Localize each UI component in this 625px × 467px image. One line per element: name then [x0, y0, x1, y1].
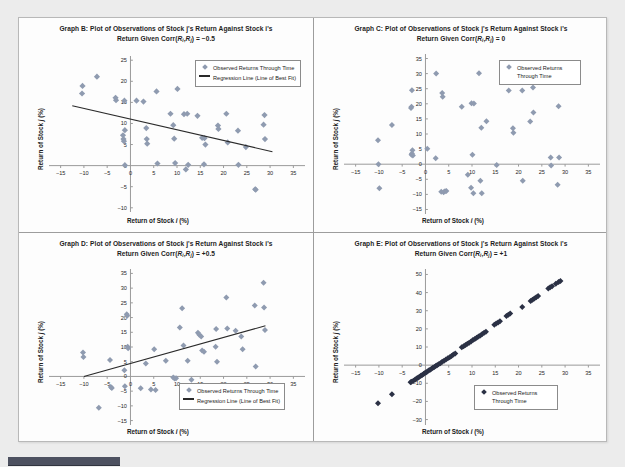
- data-point: [167, 111, 173, 117]
- legend-label-regression: Regression Line (Line of Best Fit): [213, 74, 296, 82]
- data-point: [478, 125, 484, 131]
- data-point: [253, 187, 259, 193]
- x-tick-label: 5: [152, 381, 155, 387]
- x-tick-label: 15: [492, 370, 498, 376]
- y-tick-label: −15: [412, 206, 422, 212]
- data-point: [153, 387, 159, 393]
- data-point: [506, 88, 512, 94]
- data-point: [469, 152, 475, 158]
- data-point: [133, 98, 139, 104]
- data-point: [194, 113, 200, 119]
- legend-entry-observed: Observed Returns Through Time: [503, 64, 576, 81]
- y-tick-label: −30: [412, 417, 422, 423]
- x-tick-label: −5: [104, 170, 110, 176]
- data-point: [201, 161, 207, 167]
- data-point: [530, 110, 536, 116]
- x-tick-label: 10: [469, 370, 475, 376]
- data-point: [177, 325, 183, 331]
- x-tick-label: 10: [174, 170, 180, 176]
- data-point: [261, 280, 267, 286]
- legend-entry-regression: Regression Line (Line of Best Fit): [183, 397, 280, 405]
- x-tick-label: 30: [562, 169, 568, 175]
- data-point: [470, 190, 476, 196]
- y-axis-label-graph-e: Return of Stock j (%): [332, 321, 339, 383]
- figure-sheet: Graph B: Plot of Observations of Stock j…: [18, 17, 607, 442]
- diamond-marker-icon: [183, 387, 194, 392]
- x-tick-label: 20: [515, 370, 521, 376]
- legend-graph-c[interactable]: Observed Returns Through Time: [499, 60, 581, 85]
- data-point: [253, 363, 259, 369]
- data-point: [96, 405, 102, 411]
- x-axis-label-graph-b: Return of Stock i (%): [127, 217, 189, 224]
- legend-entry-regression: Regression Line (Line of Best Fit): [199, 74, 296, 82]
- data-point: [153, 88, 159, 94]
- data-point: [238, 333, 244, 339]
- data-point: [375, 400, 381, 406]
- line-marker-icon: [199, 74, 210, 76]
- y-tick-label: 20: [416, 326, 422, 332]
- x-tick-label: 35: [585, 169, 591, 175]
- y-tick-label: 30: [416, 308, 422, 314]
- x-tick-label: −15: [56, 170, 66, 176]
- legend-label-regression: Regression Line (Line of Best Fit): [197, 397, 280, 405]
- y-tick-label: 35: [121, 270, 127, 276]
- data-point: [224, 325, 230, 331]
- data-point: [188, 377, 194, 383]
- x-axis-label-graph-c: Return of Stock i (%): [422, 217, 484, 224]
- data-point: [143, 360, 149, 366]
- y-tick-label: −10: [117, 403, 127, 409]
- data-point: [440, 94, 446, 100]
- data-point: [555, 182, 561, 188]
- data-point: [174, 86, 180, 92]
- data-point: [122, 127, 128, 133]
- x-tick-label: 0: [129, 170, 132, 176]
- data-point: [262, 327, 268, 333]
- data-point: [468, 185, 474, 191]
- y-tick-label: 5: [419, 146, 422, 152]
- data-point: [170, 122, 176, 128]
- legend-graph-b[interactable]: Observed Returns Through Time Regression…: [195, 60, 301, 87]
- legend-graph-d[interactable]: Observed Returns Through Time Regression…: [179, 383, 285, 410]
- data-point: [389, 122, 395, 128]
- data-point: [519, 88, 525, 94]
- x-tick-label: −10: [79, 170, 89, 176]
- data-point: [433, 155, 439, 161]
- data-point: [235, 162, 241, 168]
- y-tick-label: 20: [416, 101, 422, 107]
- data-point: [252, 302, 258, 308]
- y-tick-label: −5: [121, 388, 127, 394]
- legend-entry-observed: Observed Returns Through Time: [183, 387, 280, 395]
- data-point: [140, 98, 146, 104]
- plot-area-graph-d: −15−10−505101520253035−15−10−50510152025…: [19, 257, 313, 443]
- data-point: [202, 141, 208, 147]
- y-tick-label: 40: [416, 290, 422, 296]
- x-tick-label: 15: [492, 169, 498, 175]
- y-tick-label: −10: [412, 191, 422, 197]
- x-tick-label: 30: [562, 370, 568, 376]
- data-point: [520, 178, 526, 184]
- x-tick-label: 20: [220, 170, 226, 176]
- bottom-status-bar: [8, 457, 120, 466]
- y-tick-label: −15: [117, 418, 127, 424]
- diamond-marker-icon: [199, 64, 210, 69]
- data-point: [213, 344, 219, 350]
- data-point: [223, 111, 229, 117]
- x-tick-label: −10: [374, 370, 384, 376]
- chart-title-line1-graph-b: Graph B: Plot of Observations of Stock j…: [59, 25, 272, 32]
- line-marker-icon: [183, 397, 194, 399]
- x-tick-label: −10: [79, 381, 89, 387]
- legend-graph-e[interactable]: Observed Returns Through Time: [474, 385, 558, 410]
- y-tick-label: 0: [419, 362, 422, 368]
- x-tick-label: −15: [351, 370, 361, 376]
- data-point: [376, 185, 382, 191]
- x-tick-label: 25: [539, 370, 545, 376]
- data-point: [556, 155, 562, 161]
- x-tick-label: −5: [399, 169, 405, 175]
- x-axis-label-graph-e: Return of Stock i (%): [422, 428, 484, 435]
- y-tick-label: 0: [419, 161, 422, 167]
- x-tick-label: 35: [585, 370, 591, 376]
- y-tick-label: 15: [121, 329, 127, 335]
- y-tick-label: −5: [416, 176, 422, 182]
- chart-panel-graph-c: Graph C: Plot of Observations of Stock j…: [314, 18, 608, 232]
- data-point: [79, 83, 85, 89]
